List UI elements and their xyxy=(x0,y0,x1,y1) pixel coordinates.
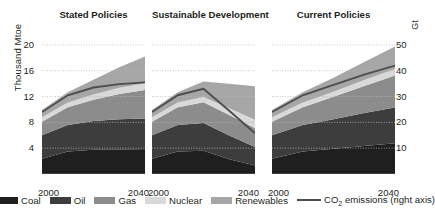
left-axis-title: Thousand Mtoe xyxy=(12,3,23,113)
panel-title: Stated Policies xyxy=(42,9,145,20)
legend-color-swatch xyxy=(94,197,115,204)
legend-line-swatch xyxy=(297,199,321,201)
left-tick-label: 4 xyxy=(29,143,34,153)
legend-color-swatch xyxy=(145,197,166,204)
legend-color-swatch xyxy=(0,197,18,204)
legend-item[interactable]: CO2 emissions (right axis) xyxy=(297,194,435,207)
legend-item[interactable]: Oil xyxy=(50,195,86,206)
right-tick-label: 20 xyxy=(396,117,407,127)
right-tick-label: 30 xyxy=(396,92,407,102)
legend-label: CO2 emissions (right axis) xyxy=(324,194,435,207)
right-tick-label: 40 xyxy=(396,66,407,76)
legend-color-swatch xyxy=(50,197,71,204)
legend-color-swatch xyxy=(211,197,232,204)
panel-title: Current Policies xyxy=(272,9,395,20)
panel-title: Sustainable Development xyxy=(152,9,255,20)
chart-panel: Stated Policies20002040 xyxy=(42,22,145,174)
chart-panel: Sustainable Development20002040 xyxy=(152,22,255,174)
left-tick-label: 12 xyxy=(23,92,34,102)
legend-label: Coal xyxy=(21,195,41,206)
legend-label: Gas xyxy=(118,195,136,206)
plot-area xyxy=(152,32,255,174)
legend-item[interactable]: Gas xyxy=(94,195,136,206)
chart-legend: CoalOilGasNuclearRenewablesCO2 emissions… xyxy=(0,192,432,208)
left-tick-label: 8 xyxy=(29,117,34,127)
legend-label: Oil xyxy=(74,195,86,206)
legend-label: Nuclear xyxy=(169,195,202,206)
legend-label: Renewables xyxy=(235,195,288,206)
right-axis-title: Gt xyxy=(410,10,420,40)
left-tick-label: 16 xyxy=(23,66,34,76)
right-tick-label: 10 xyxy=(396,143,407,153)
legend-item[interactable]: Renewables xyxy=(211,195,288,206)
chart-panel: Current Policies20002040 xyxy=(272,22,395,174)
plot-area xyxy=(272,32,395,174)
left-tick-label: 20 xyxy=(23,40,34,50)
legend-item[interactable]: Nuclear xyxy=(145,195,202,206)
x-axis-line xyxy=(42,173,145,174)
legend-item[interactable]: Coal xyxy=(0,195,41,206)
x-axis-line xyxy=(272,173,395,174)
plot-area xyxy=(42,32,145,174)
right-tick-label: 50 xyxy=(396,40,407,50)
x-axis-line xyxy=(152,173,255,174)
